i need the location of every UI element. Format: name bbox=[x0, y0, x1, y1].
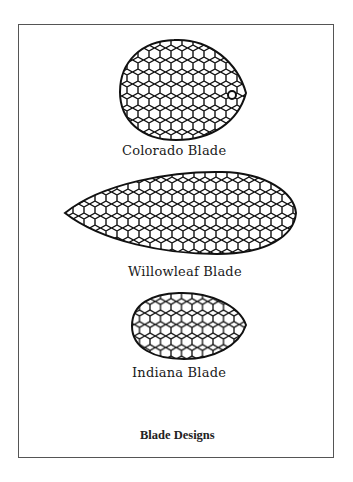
indiana-blade-illustration bbox=[129, 290, 249, 362]
figure-caption: Blade Designs bbox=[140, 428, 215, 443]
attachment-hole-icon bbox=[228, 91, 236, 99]
colorado-blade-label: Colorado Blade bbox=[122, 143, 226, 158]
colorado-blade-illustration bbox=[116, 36, 250, 144]
willowleaf-blade-label: Willowleaf Blade bbox=[128, 264, 242, 279]
willowleaf-blade-illustration bbox=[62, 168, 300, 258]
indiana-blade-label: Indiana Blade bbox=[132, 365, 226, 380]
